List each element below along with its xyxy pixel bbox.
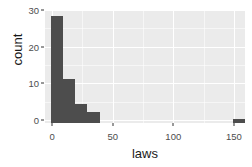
histogram-bar — [75, 104, 87, 123]
gridline-major-y-30 — [45, 10, 245, 11]
y-tick-mark-0 — [41, 120, 44, 121]
x-tick-mark-50 — [112, 123, 113, 126]
gridline-minor-y-15 — [45, 65, 245, 66]
gridline-major-x-100 — [173, 10, 174, 123]
y-tick-mark-10 — [41, 83, 44, 84]
histogram-bar — [51, 16, 63, 123]
y-tick-label-10: 10 — [22, 78, 39, 89]
y-tick-label-20: 20 — [22, 41, 39, 52]
y-tick-label-0: 0 — [22, 115, 39, 126]
x-tick-label-50: 50 — [107, 131, 118, 142]
gridline-major-x-150 — [234, 10, 235, 123]
gridline-major-x-50 — [113, 10, 114, 123]
gridline-minor-x-75 — [143, 10, 144, 123]
histogram-bar — [233, 119, 245, 123]
x-tick-mark-150 — [233, 123, 234, 126]
gridline-minor-x-125 — [204, 10, 205, 123]
x-axis-title: laws — [45, 146, 245, 161]
gridline-major-y-20 — [45, 47, 245, 48]
histogram-plot: count 0 10 20 30 — [0, 0, 252, 167]
x-tick-label-0: 0 — [49, 131, 54, 142]
plot-panel — [45, 10, 245, 123]
gridline-minor-y-25 — [45, 28, 245, 29]
x-tick-mark-0 — [52, 123, 53, 126]
x-tick-label-150: 150 — [226, 131, 242, 142]
y-tick-mark-30 — [41, 9, 44, 10]
y-tick-label-30: 30 — [22, 4, 39, 15]
histogram-bar — [63, 79, 75, 123]
x-tick-label-100: 100 — [165, 131, 181, 142]
x-tick-mark-100 — [173, 123, 174, 126]
y-tick-mark-20 — [41, 46, 44, 47]
histogram-bar — [87, 112, 99, 123]
